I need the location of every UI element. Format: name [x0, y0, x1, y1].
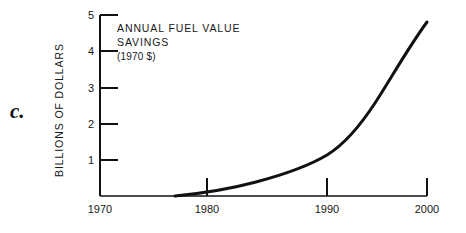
x-tick-label-1980: 1980: [181, 204, 233, 215]
annotation-line-3: (1970 $): [117, 50, 240, 63]
x-tick-label-2000: 2000: [401, 204, 453, 215]
chart-annotation: ANNUAL FUEL VALUE SAVINGS (1970 $): [117, 22, 240, 63]
annotation-line-1: ANNUAL FUEL VALUE: [117, 22, 240, 36]
chart-figure: c. BILLIONS OF DOLLARS 5 4 3 2 1: [0, 0, 466, 233]
x-tick-label-1990: 1990: [301, 204, 353, 215]
annotation-line-2: SAVINGS: [117, 36, 240, 50]
x-tick-label-1970: 1970: [74, 204, 126, 215]
